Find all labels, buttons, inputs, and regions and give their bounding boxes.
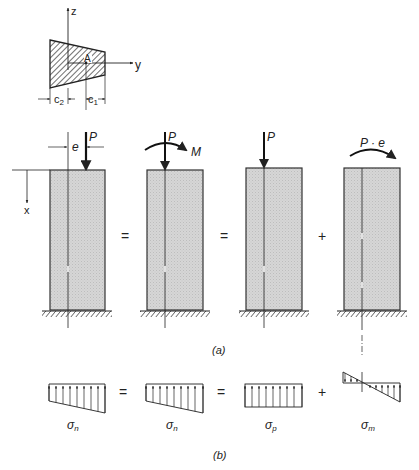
part-a-label: (a) — [212, 344, 226, 356]
moment-label: P · e — [360, 136, 385, 150]
column-body — [147, 170, 203, 310]
ground-support — [337, 311, 407, 317]
ground-support — [239, 311, 309, 317]
stress-diagram-sigma-n-2: σn — [146, 384, 203, 433]
equals-operator: = — [220, 228, 228, 244]
ground-support — [42, 311, 112, 317]
load-label: P — [267, 130, 275, 144]
load-label: P — [89, 130, 97, 144]
stress-diagram-sigma-n-1: σn — [49, 384, 105, 433]
part-b-label: (b) — [213, 449, 227, 461]
stress-diagram-sigma-m: σm — [343, 372, 400, 433]
column-body — [246, 168, 302, 310]
column-body — [344, 168, 400, 310]
sigma-n-label: σn — [67, 418, 79, 433]
plus-operator: + — [318, 228, 326, 244]
plus-operator: + — [318, 384, 326, 400]
sigma-p-label: σp — [265, 418, 277, 433]
column-axial: P — [239, 130, 309, 328]
column-load-and-moment: P M — [140, 130, 210, 328]
stress-diagram-sigma-p: σp — [245, 384, 302, 433]
ground-support — [140, 311, 210, 317]
x-axis-label: x — [24, 204, 30, 216]
column-eccentric: P e x — [12, 130, 112, 328]
dim-c1-label: c1 — [88, 93, 99, 107]
eccentricity-label: e — [72, 140, 79, 154]
column-body — [50, 170, 105, 310]
y-axis-label: y — [135, 58, 141, 72]
z-axis-label: z — [71, 5, 77, 17]
cross-section: z y A c2 c1 — [38, 5, 141, 110]
eccentric-load-figure: z y A c2 c1 P e x = — [0, 0, 419, 470]
equals-operator: = — [119, 384, 127, 400]
moment-arrow-icon — [350, 149, 395, 158]
column-bending: P · e — [337, 136, 407, 355]
load-label: P — [168, 130, 176, 144]
sigma-n-label: σn — [166, 418, 178, 433]
equals-operator: = — [217, 384, 225, 400]
sigma-m-label: σm — [361, 418, 375, 433]
dim-c2-label: c2 — [54, 93, 65, 107]
moment-label: M — [191, 145, 201, 159]
cross-section-shape — [50, 40, 105, 88]
equals-operator: = — [121, 228, 129, 244]
